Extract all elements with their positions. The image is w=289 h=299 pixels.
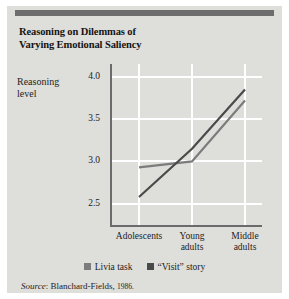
legend-swatch-icon-0 <box>84 263 91 270</box>
legend-label-0: Livia task <box>95 262 133 272</box>
legend-item-1: “Visit” story <box>147 262 206 272</box>
y-axis-label: Reasoning level <box>17 76 77 99</box>
y-tick-3.0: 3.0 <box>76 155 100 165</box>
legend-swatch-icon-1 <box>147 263 154 270</box>
header-bar <box>15 10 274 16</box>
plot-area <box>103 64 265 233</box>
y-tick-4.0: 4.0 <box>76 71 100 81</box>
page-title: Reasoning on Dilemmas of Varying Emotion… <box>19 26 229 51</box>
x-tick-line-2: adults <box>210 242 280 253</box>
legend-item-0: Livia task <box>84 262 133 272</box>
series-line-1 <box>139 89 245 197</box>
legend-label-1: “Visit” story <box>158 262 206 272</box>
title-line-1: Reasoning on Dilemmas of <box>19 26 229 39</box>
x-tick-2: Middleadults <box>210 231 280 253</box>
legend: Livia task“Visit” story <box>7 262 282 272</box>
title-line-2: Varying Emotional Saliency <box>19 39 229 52</box>
y-axis-label-line-2: level <box>17 88 77 100</box>
figure-panel: Reasoning on Dilemmas of Varying Emotion… <box>7 6 282 293</box>
series-lines <box>103 64 265 233</box>
y-axis-label-line-1: Reasoning <box>17 76 77 88</box>
source-year: 1986. <box>117 282 134 291</box>
source-note: Source: Blanchard-Fields, 1986. <box>21 281 134 291</box>
source-label: Source <box>21 281 46 291</box>
x-tick-line-1: Middle <box>210 231 280 242</box>
y-tick-3.5: 3.5 <box>76 113 100 123</box>
source-citation: Blanchard-Fields, <box>50 281 117 291</box>
series-line-0 <box>139 100 245 167</box>
y-tick-2.5: 2.5 <box>76 198 100 208</box>
